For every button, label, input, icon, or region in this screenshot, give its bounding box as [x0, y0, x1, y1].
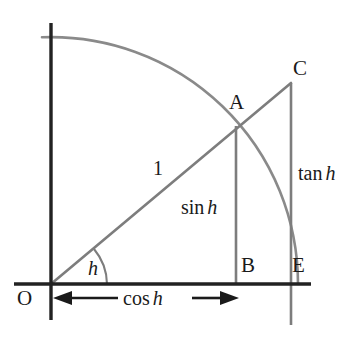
point-label-e: E [292, 255, 305, 276]
sin-label: sinh [181, 197, 217, 217]
tan-function-name: tan [298, 162, 322, 184]
angle-label-h: h [88, 258, 98, 278]
point-label-b: B [241, 255, 255, 276]
tan-label: tanh [298, 163, 335, 183]
cos-function-name: cos [123, 287, 150, 309]
cos-arrow-head-right [220, 291, 239, 305]
sin-variable: h [207, 196, 217, 218]
point-label-a: A [229, 92, 244, 113]
cos-arrow-head-left [53, 291, 72, 305]
point-label-o: O [17, 288, 32, 309]
sin-function-name: sin [181, 196, 204, 218]
radius-length-label: 1 [153, 158, 163, 178]
point-label-c: C [293, 58, 307, 79]
unit-arc [42, 37, 298, 284]
hypotenuse-line-OC [51, 83, 291, 284]
tan-variable: h [325, 162, 335, 184]
cos-variable: h [153, 287, 163, 309]
cos-label: cosh [123, 288, 163, 308]
